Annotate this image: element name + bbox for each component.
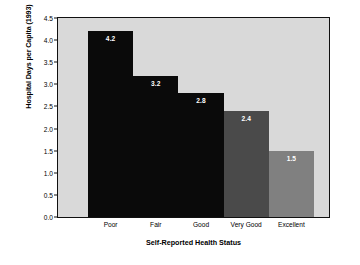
bar-value-label: 3.2 bbox=[133, 80, 178, 87]
y-tick-label: 2.5 bbox=[44, 103, 53, 110]
x-tick-label: Fair bbox=[150, 221, 161, 228]
bar-value-label: 1.5 bbox=[269, 155, 314, 162]
x-tick-label: Excellent bbox=[278, 221, 305, 228]
bar-value-label: 4.2 bbox=[88, 35, 133, 42]
bar-good: 2.8 bbox=[178, 93, 223, 217]
bar-excellent: 1.5 bbox=[269, 151, 314, 217]
plot-area: 4.23.22.82.41.5 bbox=[57, 17, 330, 218]
x-axis-title: Self-Reported Health Status bbox=[57, 238, 330, 247]
x-axis-ticks: PoorFairGoodVery GoodExcellent bbox=[57, 221, 330, 235]
bar-chart: Hospital Days per Capita (1993) 0.00.51.… bbox=[0, 0, 360, 265]
y-tick-label: 4.0 bbox=[44, 37, 53, 44]
y-tick-label: 1.0 bbox=[44, 169, 53, 176]
y-tick-label: 3.0 bbox=[44, 81, 53, 88]
y-tick-label: 1.5 bbox=[44, 147, 53, 154]
bars-layer: 4.23.22.82.41.5 bbox=[58, 18, 329, 217]
x-tick-label: Good bbox=[193, 221, 209, 228]
y-tick-label: 2.0 bbox=[44, 125, 53, 132]
bar-value-label: 2.8 bbox=[178, 97, 223, 104]
y-tick-label: 0.0 bbox=[44, 214, 53, 221]
y-tick-label: 3.5 bbox=[44, 59, 53, 66]
y-tick-label: 0.5 bbox=[44, 191, 53, 198]
bar-poor: 4.2 bbox=[88, 31, 133, 217]
x-tick-label: Very Good bbox=[231, 221, 262, 228]
bar-very-good: 2.4 bbox=[224, 111, 269, 217]
bar-fair: 3.2 bbox=[133, 76, 178, 218]
x-tick-label: Poor bbox=[104, 221, 118, 228]
y-tick-label: 4.5 bbox=[44, 15, 53, 22]
y-axis-ticks: 0.00.51.01.52.02.53.03.54.04.5 bbox=[0, 17, 57, 218]
bar-value-label: 2.4 bbox=[224, 115, 269, 122]
